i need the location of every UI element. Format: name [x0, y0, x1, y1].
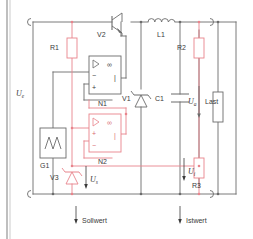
load-label: Last: [205, 98, 218, 105]
page-border: [7, 0, 10, 239]
u-s-subscript: s: [96, 179, 98, 185]
n2-gain: ∞: [107, 119, 112, 126]
component-r1: R1: [50, 38, 77, 58]
component-r2: R2: [177, 38, 204, 58]
r1-label: R1: [50, 44, 59, 51]
istwert-label: Istwert: [186, 217, 207, 224]
n2-output-marker: |: [114, 132, 116, 140]
component-v1: V1: [122, 91, 151, 107]
svg-text:Ue: Ue: [16, 89, 25, 99]
schematic-canvas: R1 R2 R3 C1 L1: [0, 0, 253, 239]
g1-label: G1: [40, 162, 49, 169]
n1-input-plus: +: [92, 84, 96, 91]
v3-label: V3: [50, 174, 59, 181]
circuit-diagram-figure: R1 R2 R3 C1 L1: [0, 0, 253, 239]
signal-istwert: Istwert: [178, 206, 206, 224]
c1-label: C1: [155, 95, 164, 102]
component-l1: L1: [148, 19, 175, 38]
n1-label: N1: [98, 100, 107, 107]
n1-gain: ∞: [107, 61, 112, 68]
label-u-a: Ua: [188, 86, 201, 118]
v2-label: V2: [97, 31, 106, 38]
component-v3: V3: [50, 168, 82, 184]
n2-input-minus: −: [92, 142, 96, 149]
terminal-input-bottom: [28, 191, 31, 198]
sollwert-label: Sollwert: [82, 217, 107, 224]
svg-text:Ua: Ua: [188, 97, 197, 107]
v1-label: V1: [122, 95, 131, 102]
svg-text:Us: Us: [90, 175, 98, 185]
component-n2: ∞ + − | N2: [89, 114, 121, 165]
label-u-e: Ue: [16, 89, 25, 99]
signal-sollwert: Sollwert: [74, 206, 107, 224]
component-n1: ∞ − + | N1: [89, 56, 121, 107]
u-a-subscript: a: [194, 101, 197, 107]
black-wiring: [33, 22, 236, 194]
n1-output-marker: |: [114, 74, 116, 82]
label-u-s: Us: [84, 166, 98, 189]
n2-label: N2: [98, 158, 107, 165]
component-v2: V2: [97, 13, 122, 38]
component-load: [213, 92, 223, 122]
u-e-subscript: e: [22, 93, 25, 99]
terminal-input-top: [28, 19, 31, 26]
component-c1: C1: [155, 94, 189, 102]
r2-label: R2: [177, 44, 186, 51]
l1-label: L1: [157, 31, 165, 38]
r3-label: R3: [192, 182, 201, 189]
n1-input-minus: −: [92, 72, 96, 79]
n2-input-plus: +: [92, 130, 96, 137]
